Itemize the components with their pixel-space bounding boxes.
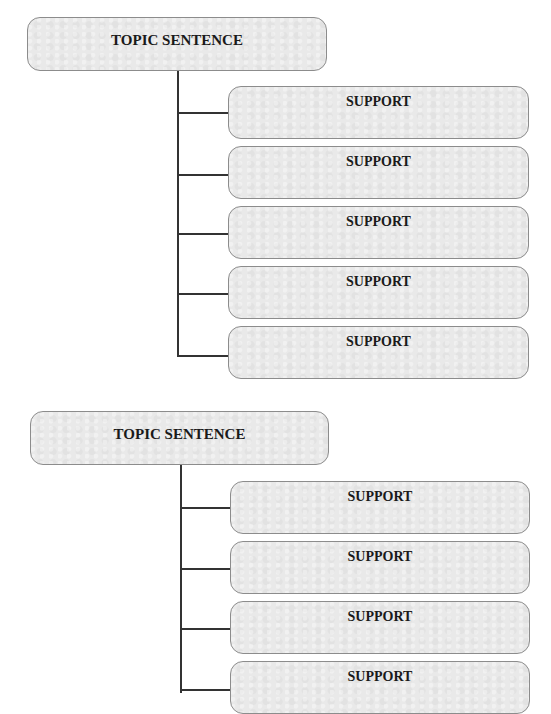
connector-branch (177, 174, 228, 176)
support-box: SUPPORT (230, 541, 530, 594)
connector-branch (180, 628, 230, 630)
support-box: SUPPORT (228, 266, 529, 319)
support-label: SUPPORT (348, 549, 413, 564)
support-label: SUPPORT (346, 274, 411, 289)
support-label: SUPPORT (348, 609, 413, 624)
topic-sentence-label: TOPIC SENTENCE (114, 426, 246, 442)
connector-branch (177, 355, 228, 357)
support-label: SUPPORT (346, 334, 411, 349)
topic-sentence-box: TOPIC SENTENCE (27, 17, 327, 71)
connector-branch (177, 112, 228, 114)
connector-branch (177, 233, 228, 235)
connector-trunk (180, 465, 182, 693)
support-label: SUPPORT (346, 154, 411, 169)
support-label: SUPPORT (348, 489, 413, 504)
support-label: SUPPORT (348, 669, 413, 684)
support-box: SUPPORT (228, 326, 529, 379)
support-label: SUPPORT (346, 94, 411, 109)
topic-sentence-label: TOPIC SENTENCE (111, 32, 243, 48)
connector-branch (180, 689, 230, 691)
topic-sentence-box: TOPIC SENTENCE (30, 411, 329, 465)
connector-branch (180, 568, 230, 570)
connector-branch (177, 293, 228, 295)
support-box: SUPPORT (228, 86, 529, 139)
support-box: SUPPORT (230, 601, 530, 654)
support-box: SUPPORT (228, 206, 529, 259)
support-box: SUPPORT (230, 481, 530, 534)
connector-branch (180, 507, 230, 509)
connector-trunk (177, 71, 179, 357)
support-box: SUPPORT (228, 146, 529, 199)
cropped-text-line (0, 0, 551, 6)
support-label: SUPPORT (346, 214, 411, 229)
support-box: SUPPORT (230, 661, 530, 714)
